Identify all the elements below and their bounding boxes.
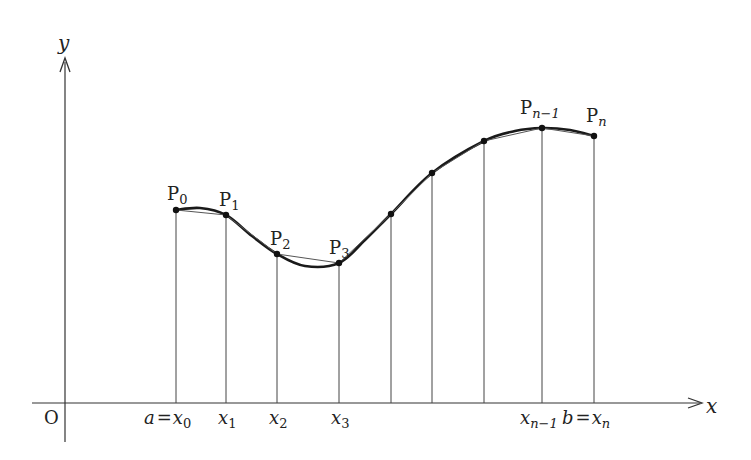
curve-point: [223, 212, 229, 218]
point-label-Pn: Pn: [586, 105, 607, 129]
x-tick-label: x2: [269, 407, 287, 431]
diagram-canvas: x y O P0P1P2P3Pn−1Pn a=x0x1x2x3xn−1b=xn: [0, 0, 751, 460]
x-tick-label: b=xn: [562, 407, 610, 431]
polygonal-chords: [176, 128, 594, 263]
y-axis-label: y: [57, 31, 70, 55]
origin-label: O: [44, 407, 59, 428]
curve-point: [539, 125, 545, 131]
curve-point: [481, 138, 487, 144]
point-label-P3: P3: [329, 237, 349, 261]
curve-point: [429, 170, 435, 176]
x-tick-label: a=x0: [144, 407, 191, 431]
point-label-P0: P0: [167, 183, 187, 207]
point-label-Pn−1: Pn−1: [520, 97, 560, 121]
curve-point: [388, 211, 394, 217]
curve-point: [173, 207, 179, 213]
curve-point: [591, 133, 597, 139]
curve-points: [173, 125, 597, 266]
curve-point: [274, 251, 280, 257]
point-labels: P0P1P2P3Pn−1Pn: [167, 97, 607, 261]
x-axis-label: x: [706, 394, 717, 418]
ordinate-lines: [176, 128, 594, 403]
x-tick-label: xn−1: [520, 407, 558, 431]
x-tick-label: x1: [218, 407, 236, 431]
axes: x y O: [32, 31, 717, 442]
x-tick-label: x3: [331, 407, 349, 431]
point-label-P1: P1: [219, 189, 239, 213]
x-tick-labels: a=x0x1x2x3xn−1b=xn: [144, 407, 610, 431]
point-label-P2: P2: [270, 228, 290, 252]
